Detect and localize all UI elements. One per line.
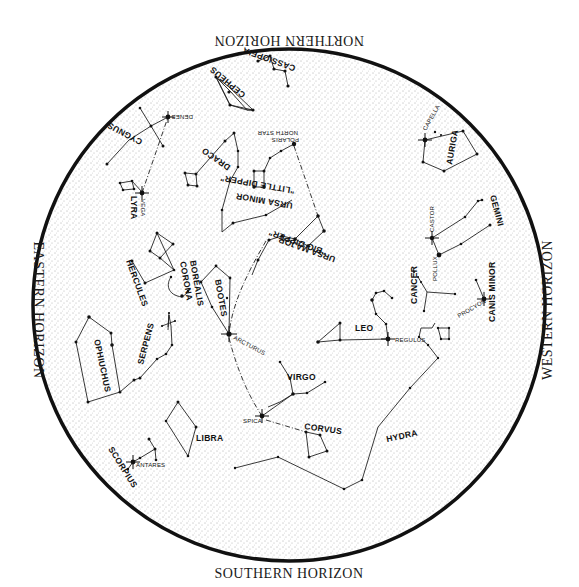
sky-chart: NORTHERN HORIZON SOUTHERN HORIZON EASTER… [0, 0, 579, 587]
svg-text:LEO: LEO [355, 323, 373, 333]
northern-horizon-label: NORTHERN HORIZON [214, 33, 364, 48]
svg-text:CANCER: CANCER [409, 266, 419, 304]
svg-text:REGULUS: REGULUS [395, 337, 425, 343]
svg-text:CANIS MINOR: CANIS MINOR [487, 262, 497, 322]
svg-text:LYRA: LYRA [129, 196, 139, 220]
svg-text:VIRGO: VIRGO [287, 372, 316, 382]
svg-text:VEGA: VEGA [140, 199, 146, 216]
eastern-horizon-label: EASTERN HORIZON [31, 242, 46, 379]
svg-text:SPICA: SPICA [243, 418, 262, 424]
svg-text:CASTOR: CASTOR [429, 205, 435, 232]
svg-text:POLARIS: POLARIS [272, 137, 299, 143]
svg-text:DENEB: DENEB [171, 114, 193, 120]
southern-horizon-label: SOUTHERN HORIZON [214, 566, 363, 581]
svg-text:ANTARES: ANTARES [136, 462, 165, 468]
svg-text:LIBRA: LIBRA [196, 433, 223, 443]
svg-text:POLLUX: POLLUX [432, 256, 438, 281]
svg-text:NORTH STAR: NORTH STAR [257, 130, 298, 136]
western-horizon-label: WESTERN HORIZON [540, 240, 555, 380]
